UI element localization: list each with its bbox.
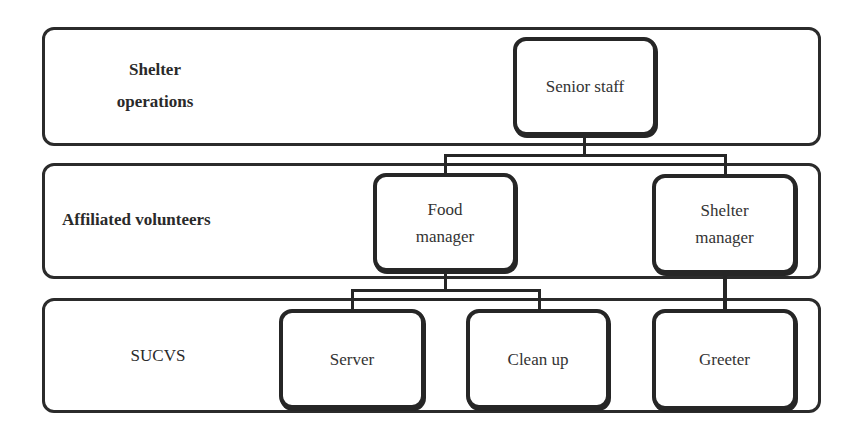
band-label-affiliated-volunteers: Affiliated volunteers	[62, 204, 262, 236]
node-server: Server	[279, 309, 425, 409]
connector-food-stem	[444, 272, 447, 290]
connector-bottom-bar-upper	[352, 289, 540, 292]
node-food-manager: Food manager	[373, 173, 517, 272]
connector-food-drop	[444, 154, 447, 174]
connector-top-bar-lower	[445, 163, 727, 166]
connector-server-drop	[351, 289, 354, 310]
band-label-shelter-operations: Shelter operations	[100, 54, 210, 118]
node-label: Shelter manager	[680, 197, 770, 251]
node-label: Server	[330, 346, 374, 373]
band-label-sucvs: SUCVS	[118, 340, 198, 372]
node-senior-staff: Senior staff	[513, 37, 657, 136]
node-label: Greeter	[699, 346, 750, 373]
connector-shelter-drop	[724, 154, 727, 175]
connector-cleanup-drop	[538, 289, 541, 310]
connector-bottom-bar-lower	[352, 298, 540, 301]
node-clean-up: Clean up	[466, 309, 610, 409]
node-label: Clean up	[508, 346, 569, 373]
node-shelter-manager: Shelter manager	[652, 174, 797, 274]
node-greeter: Greeter	[652, 309, 797, 410]
connector-greeter-line	[723, 273, 727, 310]
node-label: Senior staff	[546, 73, 625, 100]
connector-top-bar-upper	[445, 154, 727, 157]
node-label: Food manager	[400, 196, 490, 250]
connector-senior-stem	[583, 136, 586, 156]
